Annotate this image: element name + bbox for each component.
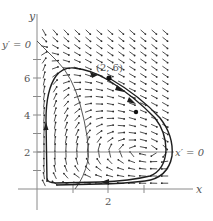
field-arrowhead-icon [167,69,169,71]
field-arrow [63,81,69,83]
field-arrowhead-icon [123,138,125,140]
field-arrow [129,81,135,84]
field-arrowhead-icon [101,33,103,35]
field-arrowhead-icon [53,165,55,167]
field-arrowhead-icon [145,126,147,128]
field-arrow [140,132,146,134]
field-arrowhead-icon [145,119,147,121]
y-axis-label: y [28,10,36,23]
field-arrowhead-icon [112,111,114,113]
field-arrowhead-icon [89,129,91,131]
field-arrowhead-icon [43,107,45,109]
field-arrowhead-icon [43,158,45,160]
field-arrow [54,123,55,129]
field-arrowhead-icon [167,33,169,35]
field-arrowhead-icon [117,167,119,169]
field-arrowhead-icon [134,90,136,92]
field-arrow [118,103,124,105]
field-arrow [63,60,69,62]
field-arrow [107,111,113,112]
field-arrow [52,67,58,69]
field-arrow [76,137,78,143]
field-arrow [129,74,135,77]
field-arrowhead-icon [134,118,136,120]
field-arrow [129,168,135,169]
field-arrow [107,89,113,91]
field-arrow [162,110,168,113]
field-arrowhead-icon [167,83,169,85]
field-arrowhead-icon [161,182,163,184]
y-tick-2: 2 [24,147,30,158]
field-arrowhead-icon [139,182,141,184]
field-arrow [129,176,135,177]
field-arrow [65,137,66,143]
field-arrow [96,167,101,171]
field-arrow [129,118,135,120]
field-arrowhead-icon [112,33,114,35]
field-arrow [152,37,157,41]
field-arrowhead-icon [90,109,92,111]
field-arrowhead-icon [123,104,125,106]
field-arrow [63,45,68,49]
field-arrowhead-icon [134,83,136,85]
field-arrowhead-icon [167,55,169,57]
field-arrow [107,175,113,177]
field-arrow [118,118,124,119]
field-arrow [74,103,80,106]
field-arrow [151,74,156,77]
field-arrow [130,44,135,48]
field-arrowhead-icon [134,104,136,106]
field-arrowhead-icon [67,115,69,117]
field-arrowhead-icon [43,165,45,167]
field-arrow [74,174,79,178]
field-arrow [65,116,68,122]
field-arrowhead-icon [77,143,79,145]
field-arrow [43,87,44,93]
field-arrowhead-icon [139,175,141,177]
field-arrow [152,44,157,48]
field-arrowhead-icon [134,62,136,64]
field-arrow [97,30,102,34]
field-arrow [162,59,167,63]
field-arrow [52,53,58,55]
field-arrowhead-icon [101,110,103,112]
field-arrowhead-icon [167,98,169,100]
field-arrowhead-icon [123,118,125,120]
field-arrow [163,37,168,41]
field-arrow [108,30,113,34]
field-arrow [43,72,45,78]
field-arrowhead-icon [156,105,158,107]
field-arrowhead-icon [145,33,147,35]
field-arrowhead-icon [128,167,130,169]
field-arrow [63,88,69,91]
field-arrow [43,79,44,85]
field-arrow [107,167,113,170]
field-arrowhead-icon [145,147,147,149]
field-arrowhead-icon [90,61,92,63]
field-arrow [107,125,113,126]
field-arrowhead-icon [84,174,86,176]
field-arrow [53,87,56,92]
field-arrowhead-icon [150,155,152,157]
field-arrow [119,44,124,48]
field-arrowhead-icon [156,141,158,143]
field-arrowhead-icon [112,40,114,42]
field-arrowhead-icon [67,33,69,35]
field-arrowhead-icon [77,136,79,138]
field-arrow [55,137,56,143]
field-arrow [162,66,167,70]
field-arrowhead-icon [156,97,158,99]
field-arrowhead-icon [78,129,80,131]
field-arrowhead-icon [123,62,125,64]
field-arrowhead-icon [45,41,47,43]
field-arrow [140,66,145,70]
field-arrow [151,95,157,98]
field-arrow [129,125,135,126]
field-arrowhead-icon [123,132,125,134]
field-arrowhead-icon [44,100,46,102]
field-arrow [118,74,124,77]
field-arrowhead-icon [150,182,152,184]
field-arrowhead-icon [90,68,92,70]
x-axis-label: x [196,183,203,196]
field-arrow [65,123,67,129]
